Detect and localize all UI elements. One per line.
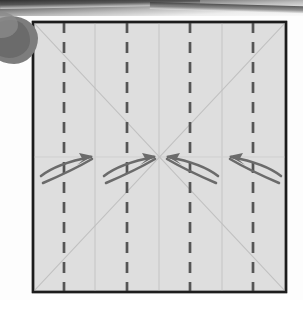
origami-diagram [0,0,303,310]
page-bottom-margin [0,300,303,310]
figure-canvas [0,0,303,310]
